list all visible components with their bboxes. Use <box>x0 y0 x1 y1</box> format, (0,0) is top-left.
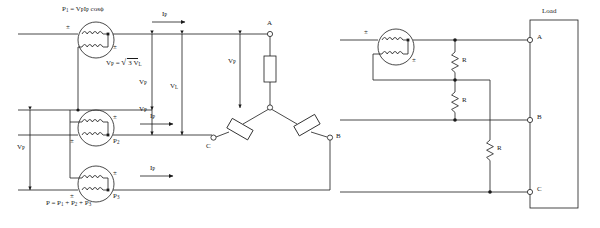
load-terminal-a-label: A <box>537 34 542 41</box>
wye-terminal-b-label: B <box>336 133 341 140</box>
resistor-r1-zigzag <box>452 52 459 72</box>
wattmeter-3-label: P3 <box>113 193 119 200</box>
wattmeter-1-polarity-right: ± <box>113 44 117 51</box>
wattmeter-1-polarity-left: ± <box>66 24 70 31</box>
wye-element-c <box>227 118 253 140</box>
wattmeter-right-polarity-left: ± <box>364 29 368 36</box>
load-terminal-a <box>527 37 532 42</box>
load-terminal-b <box>527 117 532 122</box>
wattmeter-3-polarity-left: ± <box>70 193 74 200</box>
voltage-label-vp-inner: VP <box>139 79 147 86</box>
wattmeter-2-label: P2 <box>113 138 119 145</box>
wattmeter-right-symbol <box>373 29 455 80</box>
voltage-label-vp-load: VP <box>228 58 236 65</box>
load-box-title: Load <box>542 8 556 15</box>
load-terminal-c <box>527 189 532 194</box>
formula-total-power: P = P1 + P2 + P3 <box>46 200 91 207</box>
resistor-r1-label: R <box>462 57 467 64</box>
wattmeter-right-polarity-right: ± <box>412 57 416 64</box>
circuit-diagram-svg <box>0 0 600 228</box>
wye-element-a <box>264 56 276 82</box>
load-terminal-b-label: B <box>537 114 542 121</box>
wattmeter-2-polarity-left: ± <box>70 138 74 145</box>
wye-terminal-c-label: C <box>206 143 211 150</box>
current-label-ip-3: IP <box>150 165 155 172</box>
wattmeter-2-symbol <box>70 110 114 146</box>
wattmeter-3-polarity-right: ± <box>113 170 117 177</box>
wattmeter-2-polarity-right: ± <box>113 114 117 121</box>
figure-canvas: P1 = VPIP cosϕ VP = √3 VL P = P1 + P2 + … <box>0 0 600 228</box>
voltage-label-vp-inner-lower: VP <box>139 106 147 113</box>
voltage-label-vp-left: VP <box>17 144 25 151</box>
resistor-r3-label: R <box>497 145 502 152</box>
wye-neutral-node <box>267 105 272 110</box>
load-terminal-c-label: C <box>537 186 542 193</box>
formula-power-per-phase: P1 = VPIP cosϕ <box>62 6 104 13</box>
voltage-label-vl: VL <box>170 83 178 90</box>
resistor-r3-zigzag <box>487 140 494 160</box>
resistor-r2-zigzag <box>452 92 459 112</box>
formula-voltage-relation: VP = √3 VL <box>106 58 142 67</box>
current-label-ip-2: IP <box>150 113 155 120</box>
wye-element-b <box>294 114 320 136</box>
resistor-r2-label: R <box>462 97 467 104</box>
current-label-ip-1: IP <box>162 11 167 18</box>
left-phase-line-3 <box>18 137 330 190</box>
wye-terminal-a-label: A <box>267 20 272 27</box>
